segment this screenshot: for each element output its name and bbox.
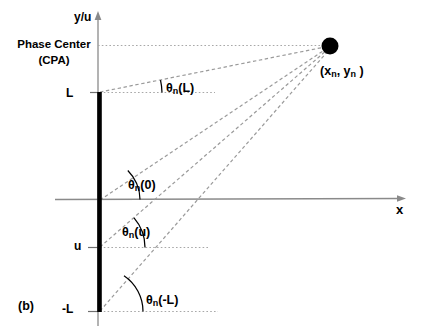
- phase-center-line2: (CPA): [6, 54, 102, 67]
- x-axis-line: [55, 199, 400, 200]
- y-axis-label: y/u: [74, 11, 91, 24]
- source-point-label: (xn, yn ): [320, 64, 364, 79]
- source-point-label-mid: , y: [337, 64, 351, 78]
- theta-u-argument: (u): [134, 225, 150, 239]
- tick-label-negative-L: -L: [62, 303, 73, 316]
- ray-from-u: [100, 50, 327, 247]
- x-axis-arrowhead: [397, 195, 406, 202]
- angle-label-theta-0: θn(0): [128, 178, 156, 193]
- tick-label-u: u: [74, 240, 81, 253]
- angle-arc-theta-L: [161, 80, 163, 92]
- source-point-marker: [322, 38, 339, 55]
- theta-0-argument: (0): [140, 178, 155, 192]
- axis-group: [55, 11, 406, 326]
- source-point-label-close: ): [356, 64, 364, 78]
- angle-label-theta-u: θn(u): [122, 225, 150, 240]
- ray-from-L: [100, 47, 325, 92]
- theta-negL-argument: (-L): [158, 293, 178, 307]
- theta-0-symbol: θ: [128, 178, 135, 192]
- subfigure-label: (b): [18, 299, 34, 313]
- figure-canvas: Phase Center (CPA) y/u x L u -L (xn, yn …: [0, 0, 427, 334]
- theta-L-symbol: θ: [166, 81, 173, 95]
- phase-center-label: Phase Center (CPA): [6, 38, 102, 67]
- angle-label-theta-L: θn(L): [166, 81, 194, 96]
- angle-label-theta-negative-L: θn(-L): [146, 293, 178, 308]
- phase-center-line1: Phase Center: [17, 38, 91, 50]
- x-axis-label: x: [396, 203, 403, 218]
- source-point-label-open: (x: [320, 64, 331, 78]
- theta-L-argument: (L): [178, 81, 194, 95]
- tick-mark-group: [88, 93, 98, 312]
- theta-negL-symbol: θ: [146, 293, 153, 307]
- y-axis-arrowhead: [95, 11, 102, 20]
- angle-arc-theta-negL: [124, 276, 143, 312]
- tick-label-L: L: [66, 87, 73, 100]
- theta-u-symbol: θ: [122, 225, 129, 239]
